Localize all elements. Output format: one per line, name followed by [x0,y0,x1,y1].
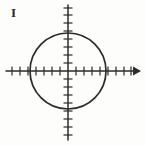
figure-container: I [0,0,145,146]
coordinate-plane-diagram [0,0,145,146]
x-axis-arrowhead-icon [133,67,141,76]
